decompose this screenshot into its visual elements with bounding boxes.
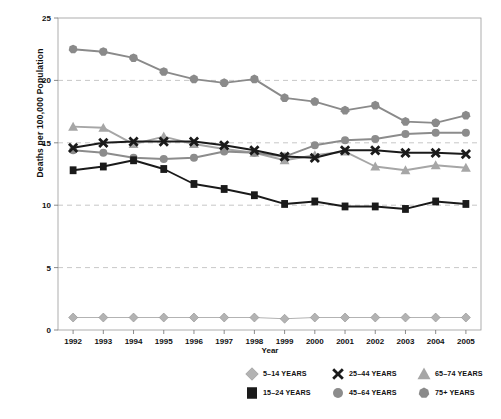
data-point: [160, 165, 167, 173]
data-point: [341, 313, 350, 322]
circle-marker: [331, 386, 345, 400]
data-point: [220, 313, 229, 322]
svg-text:1995: 1995: [155, 337, 173, 346]
heptagon-marker: [417, 386, 431, 400]
data-point: [310, 97, 319, 106]
svg-text:1999: 1999: [276, 337, 294, 346]
svg-text:2002: 2002: [366, 337, 384, 346]
data-point: [342, 203, 349, 211]
data-point: [461, 313, 470, 322]
data-point: [311, 198, 318, 206]
data-point: [432, 198, 439, 206]
data-point: [432, 129, 440, 137]
data-point: [402, 205, 409, 213]
series-25-44-years: [69, 137, 470, 162]
data-point: [221, 185, 228, 193]
legend-label: 5–14 YEARS: [263, 369, 307, 378]
data-point: [190, 75, 199, 84]
svg-text:2001: 2001: [336, 337, 354, 346]
legend-item-75+-years[interactable]: 75+ YEARS: [417, 386, 495, 400]
legend-item-5-14-years[interactable]: 5–14 YEARS: [245, 367, 331, 381]
data-point: [372, 203, 379, 211]
data-point: [190, 154, 198, 162]
y-axis-ticks: 0510152025: [42, 14, 58, 335]
legend-item-45-64-years[interactable]: 45–64 YEARS: [331, 386, 417, 400]
data-point: [99, 47, 108, 56]
data-point: [159, 67, 168, 76]
chart-legend: 5–14 YEARS25–44 YEARS65–74 YEARS15–24 YE…: [245, 364, 495, 402]
data-point: [401, 117, 410, 126]
data-point: [99, 149, 107, 157]
data-point: [250, 313, 259, 322]
data-point: [341, 136, 349, 144]
legend-label: 65–74 YEARS: [435, 369, 483, 378]
svg-text:1994: 1994: [125, 337, 143, 346]
triangle-marker: [417, 367, 431, 381]
svg-text:10: 10: [42, 201, 51, 210]
data-point: [99, 313, 108, 322]
data-point: [462, 129, 470, 137]
svg-text:1998: 1998: [245, 337, 263, 346]
legend-label: 45–64 YEARS: [349, 388, 397, 397]
x-marker: [331, 367, 345, 381]
legend-label: 75+ YEARS: [435, 388, 475, 397]
series-65-74-years: [68, 122, 471, 175]
svg-text:1996: 1996: [185, 337, 203, 346]
svg-text:15: 15: [42, 139, 51, 148]
data-point: [311, 141, 319, 149]
data-point: [461, 111, 470, 120]
series-15-24-years: [70, 156, 470, 212]
svg-text:1992: 1992: [64, 337, 82, 346]
data-series-layer: [68, 45, 471, 324]
svg-text:5: 5: [47, 264, 52, 273]
data-point: [371, 101, 380, 110]
x-axis-ticks: 1992199319941995199619971998199920002001…: [64, 330, 475, 346]
svg-text:1997: 1997: [215, 337, 233, 346]
diamond-marker: [245, 367, 259, 381]
data-point: [401, 130, 409, 138]
data-point: [462, 200, 469, 208]
data-point: [281, 200, 288, 208]
data-point: [129, 53, 138, 62]
svg-text:20: 20: [42, 76, 51, 85]
legend-item-25-44-years[interactable]: 25–44 YEARS: [331, 367, 417, 381]
chart-container: Deaths per 100,000 Population Year 05101…: [0, 0, 501, 419]
data-point: [341, 106, 350, 115]
data-point: [159, 313, 168, 322]
data-point: [100, 163, 107, 171]
plot-frame: [58, 18, 481, 330]
data-point: [431, 118, 440, 127]
data-point: [130, 156, 137, 164]
legend-item-15-24-years[interactable]: 15–24 YEARS: [245, 386, 331, 400]
data-point: [69, 313, 78, 322]
data-point: [189, 313, 198, 322]
square-marker: [245, 386, 259, 400]
svg-text:2003: 2003: [397, 337, 415, 346]
svg-text:2004: 2004: [427, 337, 445, 346]
data-point: [431, 313, 440, 322]
data-point: [129, 313, 138, 322]
data-point: [280, 93, 289, 102]
data-point: [69, 45, 78, 54]
svg-text:2000: 2000: [306, 337, 324, 346]
data-point: [251, 191, 258, 199]
legend-item-65-74-years[interactable]: 65–74 YEARS: [417, 367, 495, 381]
svg-text:1993: 1993: [94, 337, 112, 346]
data-point: [371, 135, 379, 143]
legend-label: 15–24 YEARS: [263, 388, 311, 397]
data-point: [70, 166, 77, 174]
series-75-years: [69, 45, 471, 127]
gridlines: [58, 80, 481, 267]
svg-text:0: 0: [47, 326, 52, 335]
data-point: [191, 180, 198, 188]
series-5-14-years: [69, 313, 471, 323]
plot-area: 0510152025 19921993199419951996199719981…: [0, 0, 501, 419]
legend-label: 25–44 YEARS: [349, 369, 397, 378]
data-point: [401, 313, 410, 322]
series-45-64-years: [69, 129, 470, 163]
data-point: [371, 313, 380, 322]
data-point: [220, 78, 229, 87]
svg-text:25: 25: [42, 14, 51, 23]
svg-text:2005: 2005: [457, 337, 475, 346]
data-point: [280, 314, 289, 323]
